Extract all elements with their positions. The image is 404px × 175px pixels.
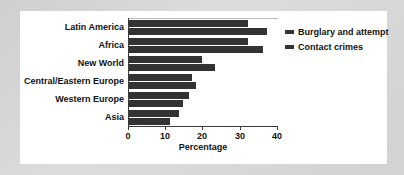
bar-contact-crimes[interactable]	[129, 46, 263, 53]
x-axis-tick	[202, 126, 203, 130]
category-label: Western Europe	[20, 94, 124, 104]
category-label: Central/Eastern Europe	[20, 76, 124, 86]
plot-area: 0 10 20 30 40	[128, 18, 277, 126]
category-label: Africa	[20, 40, 124, 50]
x-axis-tick-label: 10	[152, 131, 178, 142]
figure-frame: Latin America Africa New World Central/E…	[0, 0, 404, 175]
bar-burglary-and-attempt[interactable]	[129, 20, 248, 27]
bar-burglary-and-attempt[interactable]	[129, 38, 248, 45]
legend-swatch-icon	[285, 30, 294, 34]
x-axis-tick-label: 30	[227, 131, 253, 142]
x-axis-tick-label: 20	[189, 131, 215, 142]
x-axis-tick-label: 0	[115, 131, 141, 142]
chart-card: Latin America Africa New World Central/E…	[20, 11, 387, 164]
category-axis-labels: Latin America Africa New World Central/E…	[20, 18, 124, 126]
category-label: Latin America	[20, 22, 124, 32]
chart-legend: Burglary and attempt Contact crimes	[285, 22, 385, 52]
bar-contact-crimes[interactable]	[129, 118, 170, 125]
plot-top-border	[128, 18, 278, 19]
x-axis-tick	[128, 126, 129, 130]
legend-swatch-icon	[285, 45, 294, 49]
category-label: Asia	[20, 112, 124, 122]
bar-burglary-and-attempt[interactable]	[129, 56, 202, 63]
bar-burglary-and-attempt[interactable]	[129, 110, 179, 117]
legend-label: Contact crimes	[298, 42, 363, 52]
x-axis-line	[128, 126, 278, 127]
bar-contact-crimes[interactable]	[129, 82, 196, 89]
legend-label: Burglary and attempt	[298, 27, 389, 37]
legend-item-burglary-and-attempt[interactable]: Burglary and attempt	[285, 22, 385, 37]
bar-burglary-and-attempt[interactable]	[129, 74, 192, 81]
x-axis-title: Percentage	[128, 142, 278, 152]
x-axis-tick-label: 40	[264, 131, 290, 142]
bar-burglary-and-attempt[interactable]	[129, 92, 189, 99]
bar-contact-crimes[interactable]	[129, 100, 183, 107]
x-axis-tick	[165, 126, 166, 130]
x-axis-tick	[240, 126, 241, 130]
category-label: New World	[20, 58, 124, 68]
bar-contact-crimes[interactable]	[129, 64, 215, 71]
x-axis-tick	[277, 126, 278, 130]
legend-item-contact-crimes[interactable]: Contact crimes	[285, 37, 385, 52]
bar-contact-crimes[interactable]	[129, 28, 267, 35]
